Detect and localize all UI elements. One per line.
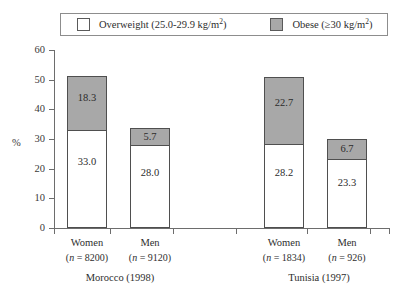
x-label-tunisia-men-n: (n = 926) bbox=[301, 251, 393, 264]
group-label-tunisia: Tunisia (1997) bbox=[244, 272, 394, 283]
y-tick-label-30: 30 bbox=[35, 132, 46, 145]
legend-label-obese: Obese (≥30 kg/m2) bbox=[292, 19, 372, 30]
bar-morocco-men: 5.7 28.0 bbox=[130, 128, 170, 228]
bar-segment-obese-morocco-men: 5.7 bbox=[130, 128, 170, 145]
x-tick-5 bbox=[370, 228, 371, 234]
y-tick-20: 20 bbox=[49, 169, 54, 170]
n-value: = 926) bbox=[337, 252, 366, 263]
n-value: = 9120) bbox=[137, 252, 171, 263]
chart-legend: Overweight (25.0-29.9 kg/m2) Obese (≥30 … bbox=[60, 13, 388, 36]
bar-value-obese-tunisia-men: 6.7 bbox=[328, 143, 366, 155]
y-tick-label-20: 20 bbox=[35, 162, 46, 175]
x-tick-6 bbox=[389, 228, 390, 234]
bar-value-obese-morocco-women: 18.3 bbox=[68, 92, 106, 104]
legend-item-obese: Obese (≥30 kg/m2) bbox=[270, 18, 372, 31]
y-tick-label-50: 50 bbox=[35, 73, 46, 86]
bar-segment-obese-tunisia-women: 22.7 bbox=[264, 77, 304, 144]
y-tick-label-60: 60 bbox=[35, 43, 46, 56]
bar-value-overweight-tunisia-women: 28.2 bbox=[265, 167, 303, 179]
legend-label-obese-text: Obese (≥30 kg/m bbox=[292, 19, 365, 30]
bar-value-overweight-tunisia-men: 23.3 bbox=[328, 177, 366, 189]
x-tick-3 bbox=[236, 228, 237, 234]
y-axis-line bbox=[54, 50, 55, 228]
x-label-morocco-men-n: (n = 9120) bbox=[104, 251, 196, 264]
legend-label-overweight-tail: ) bbox=[223, 19, 227, 30]
bmi-stacked-bar-chart: Overweight (25.0-29.9 kg/m2) Obese (≥30 … bbox=[0, 0, 395, 296]
x-label-morocco-men: Men (n = 9120) bbox=[104, 236, 196, 264]
y-tick-50: 50 bbox=[49, 80, 54, 81]
legend-label-overweight-text: Overweight (25.0-29.9 kg/m bbox=[99, 19, 219, 30]
y-tick-label-0: 0 bbox=[40, 221, 45, 234]
legend-swatch-overweight-icon bbox=[77, 18, 90, 31]
x-tick-0 bbox=[54, 228, 55, 234]
bar-segment-overweight-morocco-men: 28.0 bbox=[130, 145, 170, 228]
bar-value-overweight-morocco-women: 33.0 bbox=[68, 156, 106, 168]
bar-segment-obese-morocco-women: 18.3 bbox=[67, 76, 107, 130]
x-tick-2 bbox=[173, 228, 174, 234]
bar-tunisia-women: 22.7 28.2 bbox=[264, 77, 304, 228]
bar-value-obese-tunisia-women: 22.7 bbox=[265, 97, 303, 109]
legend-label-overweight: Overweight (25.0-29.9 kg/m2) bbox=[99, 19, 226, 30]
y-tick-label-40: 40 bbox=[35, 102, 46, 115]
bar-segment-overweight-morocco-women: 33.0 bbox=[67, 130, 107, 228]
y-tick-60: 60 bbox=[49, 50, 54, 51]
y-tick-30: 30 bbox=[49, 139, 54, 140]
y-tick-10: 10 bbox=[49, 198, 54, 199]
bar-value-overweight-morocco-men: 28.0 bbox=[131, 167, 169, 179]
legend-item-overweight: Overweight (25.0-29.9 kg/m2) bbox=[77, 18, 226, 31]
legend-label-obese-tail: ) bbox=[369, 19, 373, 30]
y-axis-title: % bbox=[12, 137, 21, 148]
plot-area: 60 50 40 30 20 10 0 18.3 33.0 bbox=[54, 50, 390, 228]
x-label-tunisia-men-text: Men bbox=[337, 237, 356, 248]
x-tick-4 bbox=[307, 228, 308, 234]
bar-tunisia-men: 6.7 23.3 bbox=[327, 139, 367, 228]
x-label-tunisia-women-text: Women bbox=[268, 237, 300, 248]
x-label-morocco-men-text: Men bbox=[140, 237, 159, 248]
y-tick-label-10: 10 bbox=[35, 191, 46, 204]
group-label-morocco: Morocco (1998) bbox=[45, 272, 195, 283]
x-tick-1 bbox=[110, 228, 111, 234]
bar-segment-obese-tunisia-men: 6.7 bbox=[327, 139, 367, 159]
x-label-morocco-women-text: Women bbox=[71, 237, 103, 248]
x-label-tunisia-men: Men (n = 926) bbox=[301, 236, 393, 264]
bar-segment-overweight-tunisia-men: 23.3 bbox=[327, 159, 367, 228]
bar-value-obese-morocco-men: 5.7 bbox=[131, 131, 169, 143]
y-tick-40: 40 bbox=[49, 109, 54, 110]
bar-segment-overweight-tunisia-women: 28.2 bbox=[264, 144, 304, 228]
bar-morocco-women: 18.3 33.0 bbox=[67, 76, 107, 228]
legend-swatch-obese-icon bbox=[270, 18, 283, 31]
x-axis-line bbox=[54, 228, 390, 229]
